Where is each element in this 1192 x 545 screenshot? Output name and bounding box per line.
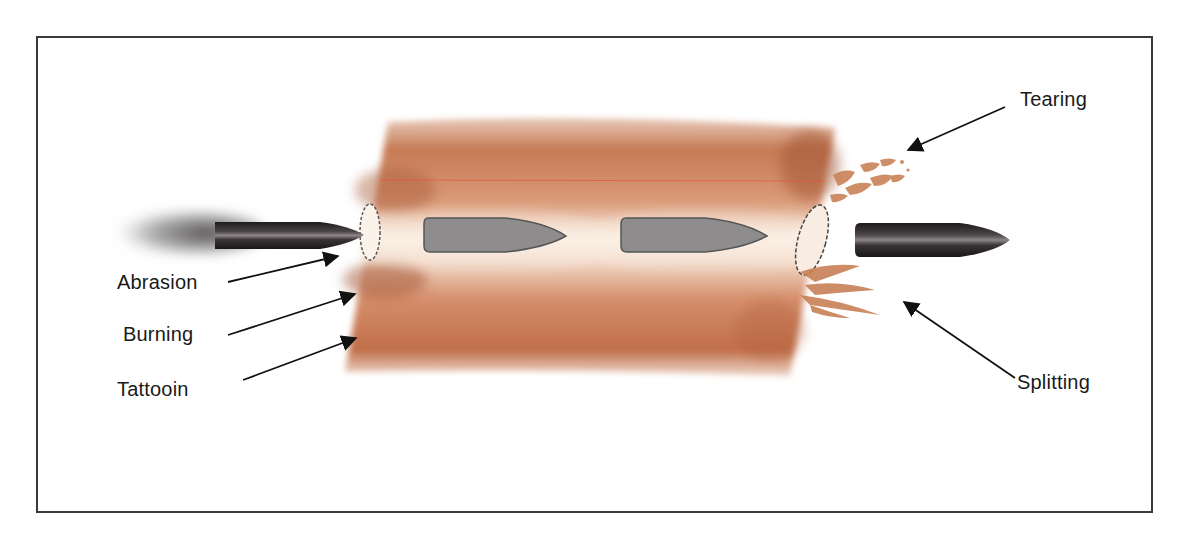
label-abrasion: Abrasion [117, 271, 198, 294]
label-tattooin: Tattooin [117, 378, 189, 401]
label-tearing: Tearing [1020, 88, 1087, 111]
tearing-fragments [830, 159, 910, 203]
bullet-icon [215, 222, 364, 249]
splitting-arrow-icon [904, 302, 1015, 378]
exiting-bullet-icon [855, 223, 1010, 257]
abrasion-arrow-icon [228, 256, 338, 282]
burning-arrow-icon [228, 294, 355, 335]
tearing-arrow-icon [908, 107, 1005, 150]
incoming-bullet [115, 211, 364, 255]
entry-wound-outline [360, 204, 380, 260]
label-burning: Burning [123, 323, 193, 346]
label-splitting: Splitting [1017, 371, 1090, 394]
splitting-fragments [800, 265, 880, 318]
tissue-block [343, 118, 840, 376]
tattooin-arrow-icon [243, 338, 356, 380]
